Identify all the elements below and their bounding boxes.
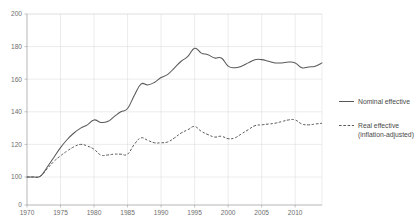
chart-title [0,0,330,4]
plot-lines-group [27,48,322,177]
chart-svg: 2001801601401201000 19701975198019851990… [0,0,414,222]
legend-label-real-effective: Real effective [358,122,399,129]
legend-label-nominal-effective: Nominal effective [358,98,410,105]
y-axis-labels-group: 2001801601401201000 [11,10,22,208]
y-axis-tick-label: 0 [18,201,22,208]
y-axis-tick-label: 100 [11,173,22,180]
x-axis-tick-label: 1985 [120,209,135,216]
x-axis-labels-group: 197019751980198519901995200020052010 [20,209,303,216]
x-axis-tick-label: 1980 [87,209,102,216]
x-axis-tick-label: 2010 [288,209,303,216]
x-axis-tick-label: 1990 [154,209,169,216]
x-axis-tick-label: 2005 [254,209,269,216]
y-axis-tick-label: 140 [11,108,22,115]
y-axis-tick-label: 120 [11,141,22,148]
series-line-nominal-effective [27,48,322,177]
chart-container: 2001801601401201000 19701975198019851990… [0,0,414,222]
tick-marks-group [25,14,296,208]
y-axis-tick-label: 200 [11,10,22,17]
y-axis-tick-label: 180 [11,43,22,50]
axes-group [27,14,322,205]
x-axis-tick-label: 1975 [53,209,68,216]
series-line-real-effective [27,119,322,177]
x-axis-tick-label: 2000 [221,209,236,216]
legend: Nominal effective Real effective (inflat… [339,98,414,139]
y-axis-tick-label: 160 [11,76,22,83]
x-axis-tick-label: 1995 [187,209,202,216]
legend-label-real-effective-sub: (inflation-adjusted) [358,131,414,139]
gridlines-group [27,14,322,205]
x-axis-tick-label: 1970 [20,209,35,216]
